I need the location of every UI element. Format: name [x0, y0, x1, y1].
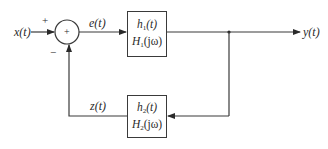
input-plus-sign: +	[42, 15, 48, 26]
feedback-transfer-function: H2(jω)	[132, 119, 162, 132]
H1-base: H	[132, 35, 140, 47]
H1-arg: (jω)	[144, 35, 162, 47]
forward-impulse-response: h1(t)	[137, 19, 157, 32]
feedback-block-h2: h2(t) H2(jω)	[127, 95, 167, 138]
h2-arg: (t)	[146, 101, 157, 113]
H2-arg: (jω)	[144, 118, 162, 130]
forward-block-h1: h1(t) H1(jω)	[127, 11, 167, 57]
error-signal-label: e(t)	[89, 17, 106, 29]
H2-base: H	[132, 118, 140, 130]
summing-junction-symbol: +	[64, 27, 70, 37]
input-signal-label: x(t)	[14, 26, 31, 38]
h1-arg: (t)	[146, 18, 157, 30]
feedback-system-diagram: + + − x(t) e(t) y(t) z(t) h1(t) H1(jω) h…	[0, 0, 328, 149]
output-signal-label: y(t)	[303, 26, 320, 38]
feedback-impulse-response: h2(t)	[137, 102, 157, 115]
feedback-minus-sign: −	[50, 47, 56, 58]
feedback-signal-label: z(t)	[90, 100, 106, 112]
forward-transfer-function: H1(jω)	[132, 36, 162, 49]
